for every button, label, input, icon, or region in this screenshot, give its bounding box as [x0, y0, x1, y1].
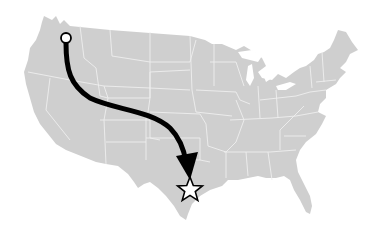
map-container [0, 0, 379, 247]
start-marker-icon[interactable] [61, 33, 71, 43]
us-map [0, 0, 379, 247]
